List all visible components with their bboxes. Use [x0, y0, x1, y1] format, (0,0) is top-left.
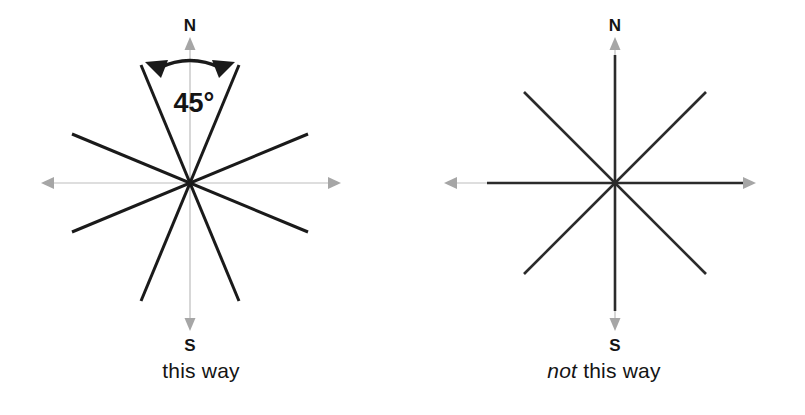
- north-arrowhead-icon: [610, 37, 621, 50]
- east-arrowhead-icon: [328, 177, 341, 189]
- angle-arrowhead-left-icon: [145, 60, 168, 78]
- west-arrowhead-icon: [41, 177, 54, 189]
- caption-emphasis: not: [547, 359, 577, 382]
- caption-not-this-way: not this way: [403, 358, 805, 384]
- figure-canvas: N S 45° this way: [0, 0, 805, 415]
- east-arrowhead-icon: [743, 177, 756, 189]
- south-arrowhead-icon: [185, 318, 196, 331]
- south-arrowhead-icon: [610, 318, 621, 331]
- caption-text: this way: [162, 359, 239, 382]
- south-label: S: [184, 336, 195, 355]
- north-label: N: [184, 16, 196, 35]
- west-arrowhead-icon: [444, 177, 457, 189]
- compass-rose-incorrect: N S: [403, 0, 805, 415]
- compass-rose-correct: N S 45°: [0, 0, 402, 415]
- star-arms-incorrect: [487, 55, 743, 311]
- angle-value-label: 45°: [174, 88, 215, 118]
- north-arrowhead-icon: [185, 37, 196, 50]
- caption-text: this way: [577, 359, 661, 382]
- north-label: N: [609, 16, 621, 35]
- angle-arrowhead-right-icon: [212, 60, 235, 78]
- south-label: S: [609, 336, 620, 355]
- caption-this-way: this way: [0, 358, 402, 384]
- panel-this-way: N S 45° this way: [0, 0, 402, 415]
- panel-not-this-way: N S not this way: [403, 0, 805, 415]
